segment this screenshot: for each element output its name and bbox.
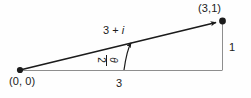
angle-denominator: 2 xyxy=(96,57,107,63)
vector-imaginary-unit: i xyxy=(122,24,124,36)
terminal-point-label: (3,1) xyxy=(198,3,221,14)
complex-number-vector-diagram: (3,1) (0, 0) 3 + i 3 1 θ 2 xyxy=(0,0,251,98)
base-length-label: 3 xyxy=(116,78,122,89)
vector-label: 3 + i xyxy=(103,25,124,36)
height-length-label: 1 xyxy=(229,42,235,53)
diagram-canvas xyxy=(0,0,251,98)
angle-fraction: θ 2 xyxy=(95,48,119,72)
angle-numerator: θ xyxy=(108,57,119,62)
angle-arc xyxy=(124,43,131,70)
vector-operator: + xyxy=(112,24,118,36)
angle-label: θ 2 xyxy=(95,48,119,72)
origin-point-dot xyxy=(17,67,23,73)
vector-real-part: 3 xyxy=(103,24,109,36)
terminal-point-dot xyxy=(219,18,226,25)
origin-point-label: (0, 0) xyxy=(9,76,35,87)
